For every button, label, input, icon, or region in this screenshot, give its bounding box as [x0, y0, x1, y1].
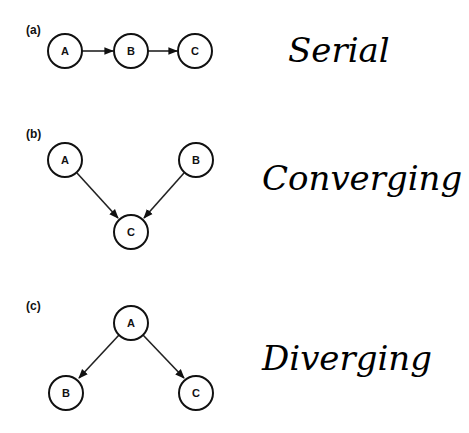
panel-label-c: (c): [26, 299, 41, 313]
panel-serial: (a) A B C Serial: [26, 23, 390, 70]
svg-text:B: B: [192, 154, 200, 166]
node-c: C: [114, 215, 148, 249]
svg-text:A: A: [61, 45, 69, 57]
node-b: B: [114, 34, 148, 68]
edge-a-to-c: [143, 335, 184, 378]
panel-label-b: (b): [26, 127, 41, 141]
node-a: A: [48, 34, 82, 68]
svg-text:C: C: [127, 226, 135, 238]
svg-text:A: A: [127, 317, 135, 329]
panel-label-a: (a): [26, 23, 41, 37]
diagram-canvas: (a) A B C Serial (b) A B C: [0, 0, 469, 433]
edge-a-to-c: [77, 173, 118, 218]
edge-a-to-b: [79, 335, 119, 378]
svg-text:B: B: [127, 45, 135, 57]
node-b: B: [179, 143, 213, 177]
node-c: C: [179, 376, 213, 410]
node-c: C: [178, 34, 212, 68]
node-a: A: [48, 143, 82, 177]
svg-text:A: A: [61, 154, 69, 166]
edge-b-to-c: [144, 173, 184, 218]
panel-diverging: (c) A B C Diverging: [26, 299, 432, 410]
svg-text:B: B: [62, 387, 70, 399]
node-a: A: [114, 306, 148, 340]
svg-text:C: C: [192, 387, 200, 399]
handwritten-title-diverging: Diverging: [261, 338, 432, 378]
handwritten-title-converging: Converging: [262, 158, 462, 198]
svg-text:C: C: [191, 45, 199, 57]
panel-converging: (b) A B C Converging: [26, 127, 462, 249]
handwritten-title-serial: Serial: [288, 30, 390, 70]
node-b: B: [49, 376, 83, 410]
